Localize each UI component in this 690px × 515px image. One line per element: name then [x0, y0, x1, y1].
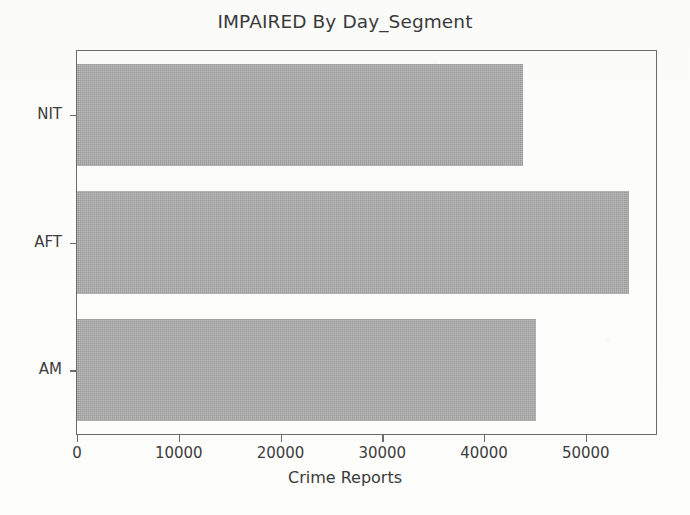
bar-am [77, 319, 536, 421]
x-tick-label-30000: 30000 [358, 444, 406, 462]
x-tick-label-20000: 20000 [257, 444, 305, 462]
x-axis-label: Crime Reports [0, 468, 690, 487]
x-tick-mark-10000 [179, 435, 180, 442]
y-tick-mark-am [70, 370, 77, 371]
x-tick-label-0: 0 [72, 444, 82, 462]
x-tick-label-50000: 50000 [562, 444, 610, 462]
y-tick-mark-nit [70, 115, 77, 116]
chart-screenshot: IMPAIRED By Day_Segment NITAFTAM 0100002… [0, 0, 690, 515]
y-tick-label-aft: AFT [34, 233, 62, 251]
x-tick-label-40000: 40000 [460, 444, 508, 462]
x-tick-mark-50000 [586, 435, 587, 442]
x-tick-mark-20000 [281, 435, 282, 442]
x-tick-mark-30000 [382, 435, 383, 442]
x-tick-mark-40000 [484, 435, 485, 442]
x-tick-mark-0 [77, 435, 78, 442]
y-tick-mark-aft [70, 243, 77, 244]
bar-nit [77, 64, 523, 166]
bar-aft [77, 191, 629, 293]
y-tick-label-nit: NIT [37, 105, 62, 123]
chart-title: IMPAIRED By Day_Segment [0, 11, 690, 32]
x-tick-label-10000: 10000 [155, 444, 203, 462]
bars-layer [77, 51, 656, 434]
y-axis-tick-labels: NITAFTAM [0, 0, 62, 515]
y-tick-label-am: AM [39, 360, 62, 378]
